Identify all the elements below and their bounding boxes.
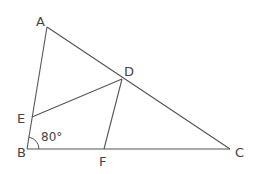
triangle-diagram: A B C D E F 80° (0, 0, 256, 174)
angle-b-arc (29, 137, 39, 149)
label-d: D (124, 64, 134, 79)
label-c: C (235, 145, 244, 160)
segment-ac (47, 27, 230, 149)
label-e: E (17, 111, 25, 126)
label-b: B (17, 145, 26, 160)
segment-ed (32, 79, 122, 117)
label-f: F (99, 154, 106, 169)
segment-df (104, 79, 122, 149)
label-a: A (36, 14, 45, 29)
angle-b-measure: 80° (41, 130, 62, 144)
